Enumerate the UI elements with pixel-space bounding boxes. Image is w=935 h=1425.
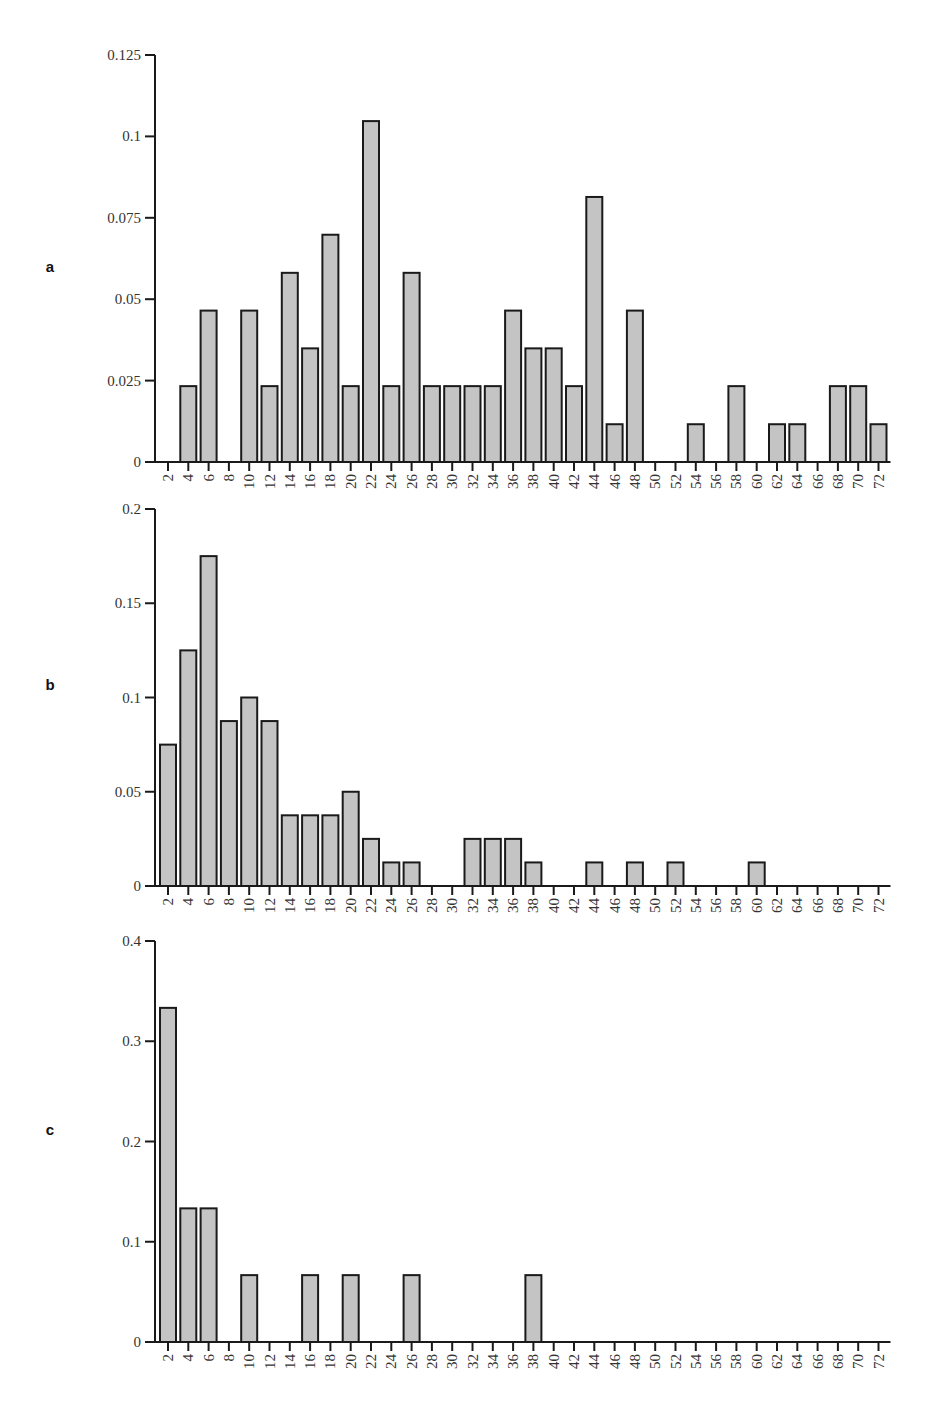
- bar-16: [302, 348, 318, 462]
- bar-18: [322, 235, 338, 462]
- x-tick-label: 26: [404, 474, 420, 490]
- x-tick-label: 52: [668, 898, 684, 913]
- bar-22: [363, 121, 379, 462]
- x-tick-label: 68: [830, 898, 846, 913]
- x-tick-label: 2: [160, 1354, 176, 1362]
- x-tick-label: 28: [424, 1354, 440, 1369]
- x-tick-label: 30: [444, 898, 460, 913]
- panel-label: a: [46, 258, 55, 275]
- x-tick-label: 30: [444, 474, 460, 489]
- chart-panel-c: c00.10.20.30.424681012141618202224262830…: [46, 933, 891, 1369]
- bar-20: [343, 1275, 359, 1342]
- bar-10: [241, 698, 257, 887]
- x-tick-label: 64: [789, 1354, 805, 1370]
- panel-label: b: [45, 676, 54, 693]
- bar-68: [830, 386, 846, 462]
- x-tick-label: 58: [728, 1354, 744, 1369]
- y-tick-label: 0: [134, 1334, 142, 1350]
- x-tick-label: 14: [282, 1354, 298, 1370]
- x-tick-label: 2: [160, 898, 176, 906]
- x-tick-label: 28: [424, 898, 440, 913]
- bar-32: [465, 839, 481, 886]
- bar-40: [546, 348, 562, 462]
- bar-6: [201, 1208, 217, 1342]
- x-tick-label: 56: [708, 898, 724, 914]
- x-tick-label: 4: [180, 898, 196, 906]
- x-tick-label: 14: [282, 898, 298, 914]
- x-tick-label: 56: [708, 474, 724, 490]
- bar-28: [424, 386, 440, 462]
- x-tick-label: 8: [221, 1354, 237, 1362]
- bar-2: [160, 1008, 176, 1342]
- x-tick-label: 28: [424, 474, 440, 489]
- y-tick-label: 0: [134, 878, 142, 894]
- bar-34: [485, 839, 501, 886]
- x-tick-label: 24: [383, 474, 399, 490]
- x-tick-label: 62: [769, 474, 785, 489]
- y-tick-label: 0: [134, 454, 142, 470]
- x-tick-label: 72: [871, 898, 887, 913]
- bar-60: [749, 862, 765, 886]
- x-tick-label: 54: [688, 1354, 704, 1370]
- x-tick-label: 34: [485, 1354, 501, 1370]
- x-tick-label: 46: [607, 474, 623, 490]
- x-tick-label: 72: [871, 1354, 887, 1369]
- bar-46: [607, 424, 623, 462]
- x-tick-label: 56: [708, 1354, 724, 1370]
- x-tick-label: 64: [789, 898, 805, 914]
- bar-34: [485, 386, 501, 462]
- x-tick-label: 22: [363, 898, 379, 913]
- x-tick-label: 24: [383, 898, 399, 914]
- x-tick-label: 18: [322, 474, 338, 489]
- x-tick-label: 10: [241, 898, 257, 913]
- x-tick-label: 32: [465, 474, 481, 489]
- x-tick-label: 50: [647, 898, 663, 913]
- x-tick-label: 6: [201, 898, 217, 906]
- bar-4: [180, 1208, 196, 1342]
- x-tick-label: 34: [485, 474, 501, 490]
- bar-22: [363, 839, 379, 886]
- x-tick-label: 66: [810, 474, 826, 490]
- bar-72: [871, 424, 887, 462]
- bar-26: [404, 1275, 420, 1342]
- x-tick-label: 40: [546, 1354, 562, 1369]
- x-tick-label: 60: [749, 474, 765, 489]
- x-tick-label: 16: [302, 474, 318, 490]
- bar-18: [322, 815, 338, 886]
- x-tick-label: 38: [525, 898, 541, 913]
- x-tick-label: 68: [830, 474, 846, 489]
- bar-10: [241, 311, 257, 462]
- y-tick-label: 0.05: [115, 784, 141, 800]
- x-tick-label: 58: [728, 474, 744, 489]
- x-tick-label: 26: [404, 898, 420, 914]
- bar-16: [302, 815, 318, 886]
- x-tick-label: 26: [404, 1354, 420, 1370]
- bar-6: [201, 556, 217, 886]
- bar-26: [404, 273, 420, 462]
- bar-48: [627, 862, 643, 886]
- bar-62: [769, 424, 785, 462]
- x-tick-label: 54: [688, 898, 704, 914]
- bar-20: [343, 792, 359, 886]
- y-tick-label: 0.05: [115, 291, 141, 307]
- x-tick-label: 32: [465, 898, 481, 913]
- y-tick-label: 0.4: [122, 933, 141, 949]
- x-tick-label: 52: [668, 1354, 684, 1369]
- x-tick-label: 6: [201, 474, 217, 482]
- x-tick-label: 52: [668, 474, 684, 489]
- x-tick-label: 30: [444, 1354, 460, 1369]
- x-tick-label: 42: [566, 1354, 582, 1369]
- x-tick-label: 42: [566, 898, 582, 913]
- x-tick-label: 68: [830, 1354, 846, 1369]
- x-tick-label: 6: [201, 1354, 217, 1362]
- bar-38: [525, 862, 541, 886]
- x-tick-label: 38: [525, 1354, 541, 1369]
- y-tick-label: 0.15: [115, 595, 141, 611]
- y-tick-label: 0.125: [107, 47, 141, 63]
- bar-14: [282, 273, 298, 462]
- x-tick-label: 48: [627, 1354, 643, 1369]
- bar-24: [383, 862, 399, 886]
- x-tick-label: 62: [769, 1354, 785, 1369]
- panel-label: c: [46, 1121, 54, 1138]
- bar-38: [525, 1275, 541, 1342]
